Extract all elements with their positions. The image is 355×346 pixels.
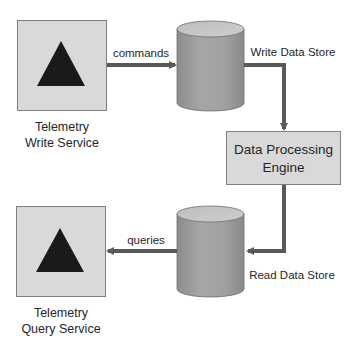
write-service-node: Telemetry Write Service [18,21,107,151]
commands-edge: commands [107,47,175,65]
write-to-engine-arrow [244,65,284,129]
database-cylinder-icon [177,21,244,111]
query-service-node: Telemetry Query Service [17,207,106,337]
query-service-label-line1: Telemetry [34,306,89,320]
queries-label: queries [127,234,165,246]
engine-to-read-edge [248,185,284,251]
write-to-engine-edge [244,65,284,129]
commands-label: commands [113,47,169,59]
engine-to-read-arrow [248,185,284,251]
engine-label-line1: Data Processing [234,142,333,157]
engine-label-line2: Engine [262,160,304,175]
architecture-diagram: Telemetry Write Service commands Write D… [0,0,355,346]
read-store-label: Read Data Store [249,269,335,281]
engine-box [227,132,341,185]
write-store-label: Write Data Store [251,46,336,58]
engine-node: Data Processing Engine [227,132,341,185]
database-cylinder-icon [177,206,244,297]
write-service-label-line2: Write Service [25,136,99,150]
queries-edge: queries [108,234,177,251]
query-service-label-line2: Query Service [21,322,100,336]
write-service-label-line1: Telemetry [35,120,90,134]
